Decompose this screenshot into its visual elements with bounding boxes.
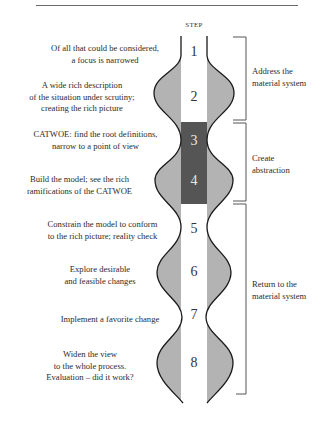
step-description-6: Explore desirable and feasible changes — [50, 264, 150, 287]
step-description-1: Of all that could be considered, a focus… — [40, 43, 170, 66]
step-description-8: Widen the view to the whole process. Eva… — [30, 349, 150, 384]
step-description-3: CATWOE: find the root definitions, narro… — [18, 129, 173, 152]
phase-label-return-material: Return to the material system — [252, 279, 306, 302]
step-number-6: 6 — [181, 264, 207, 280]
bracket-create-abstraction — [233, 123, 246, 201]
step-column-title: STEP — [176, 21, 212, 29]
step-number-7: 7 — [181, 307, 207, 323]
step-description-5: Constrain the model to conform to the ri… — [30, 219, 175, 242]
step-description-4: Build the model; see the rich ramificati… — [12, 174, 147, 197]
phase-label-create-abstraction: Create abstraction — [252, 153, 290, 176]
step-number-4: 4 — [181, 173, 207, 189]
step-number-2: 2 — [181, 89, 207, 105]
bracket-return-material — [233, 204, 246, 394]
phase-label-address-material: Address the material system — [252, 66, 306, 89]
step-description-2: A wide rich description of the situation… — [12, 80, 152, 115]
step-number-5: 5 — [181, 221, 207, 237]
step-number-3: 3 — [181, 133, 207, 149]
step-number-8: 8 — [181, 355, 207, 371]
step-number-1: 1 — [181, 44, 207, 60]
step-description-7: Implement a favorite change — [45, 314, 175, 326]
bracket-address-material — [233, 37, 246, 120]
